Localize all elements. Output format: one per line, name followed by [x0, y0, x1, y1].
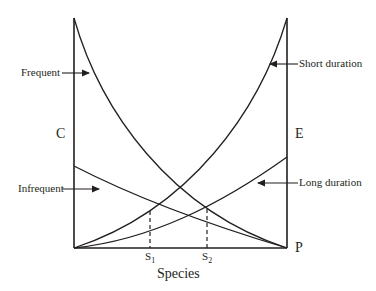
left-axis-c-label: C: [56, 127, 65, 141]
right-axis-p-label: P: [295, 241, 303, 255]
diagram-canvas: [0, 0, 376, 291]
frequent-curve: [74, 18, 287, 248]
s1-tick-label: S1: [145, 251, 155, 262]
long-duration-label: Long duration: [299, 177, 362, 188]
infrequent-label: Infrequent: [18, 183, 64, 194]
s2-tick-label: S2: [202, 251, 212, 262]
right-axis-e-label: E: [295, 127, 304, 141]
short-duration-curve: [74, 18, 287, 248]
short-duration-label: Short duration: [299, 58, 362, 69]
x-axis-label: Species: [157, 267, 200, 281]
s2-sub: 2: [208, 256, 212, 265]
long-duration-curve: [74, 157, 287, 248]
s1-sub: 1: [151, 256, 155, 265]
frequent-label: Frequent: [21, 67, 60, 78]
